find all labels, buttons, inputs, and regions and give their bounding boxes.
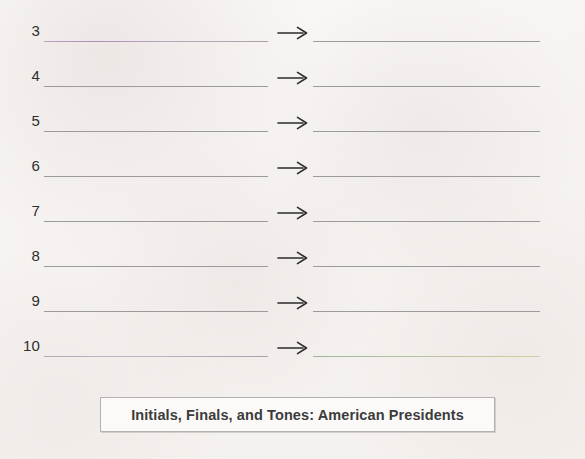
row-number: 7 <box>10 202 40 220</box>
answer-blank-left[interactable] <box>44 311 268 312</box>
answer-blank-left[interactable] <box>44 176 268 177</box>
row-number: 6 <box>10 157 40 175</box>
exercise-row: 9 <box>0 292 585 337</box>
row-number: 10 <box>10 337 40 355</box>
exercise-row: 7 <box>0 202 585 247</box>
answer-blank-right[interactable] <box>313 131 540 132</box>
right-arrow-icon <box>277 24 309 42</box>
answer-blank-left[interactable] <box>44 131 268 132</box>
right-arrow-icon <box>277 204 309 222</box>
exercise-row: 6 <box>0 157 585 202</box>
caption-box: Initials, Finals, and Tones: American Pr… <box>100 397 495 432</box>
row-number: 8 <box>10 247 40 265</box>
answer-blank-right[interactable] <box>313 266 540 267</box>
worksheet-title: Initials, Finals, and Tones: American Pr… <box>131 407 464 423</box>
exercise-row: 8 <box>0 247 585 292</box>
row-number: 3 <box>10 22 40 40</box>
right-arrow-icon <box>277 114 309 132</box>
exercise-row: 10 <box>0 337 585 382</box>
answer-blank-left[interactable] <box>44 41 268 42</box>
row-number: 5 <box>10 112 40 130</box>
worksheet-sheet: 3 4 5 <box>0 0 585 459</box>
exercise-row: 3 <box>0 22 585 67</box>
answer-blank-left[interactable] <box>44 356 268 357</box>
right-arrow-icon <box>277 249 309 267</box>
right-arrow-icon <box>277 159 309 177</box>
answer-blank-right[interactable] <box>313 311 540 312</box>
answer-blank-right[interactable] <box>313 356 540 357</box>
right-arrow-icon <box>277 294 309 312</box>
answer-blank-right[interactable] <box>313 176 540 177</box>
right-arrow-icon <box>277 339 309 357</box>
answer-blank-left[interactable] <box>44 266 268 267</box>
right-arrow-icon <box>277 69 309 87</box>
exercise-row-list: 3 4 5 <box>0 22 585 382</box>
answer-blank-left[interactable] <box>44 86 268 87</box>
answer-blank-right[interactable] <box>313 86 540 87</box>
answer-blank-right[interactable] <box>313 41 540 42</box>
answer-blank-left[interactable] <box>44 221 268 222</box>
exercise-row: 5 <box>0 112 585 157</box>
exercise-row: 4 <box>0 67 585 112</box>
answer-blank-right[interactable] <box>313 221 540 222</box>
row-number: 4 <box>10 67 40 85</box>
row-number: 9 <box>10 292 40 310</box>
